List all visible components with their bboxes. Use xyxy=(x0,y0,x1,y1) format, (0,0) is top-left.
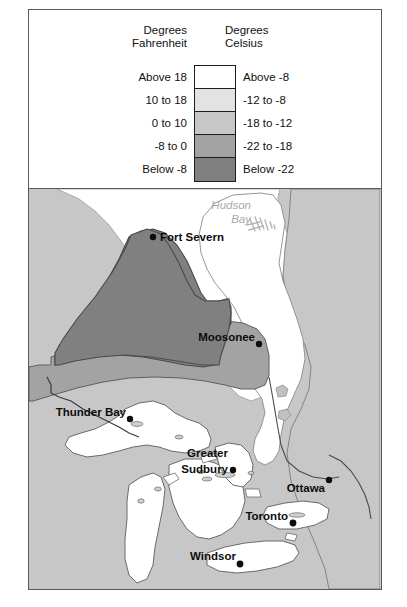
city-label-toronto: Toronto xyxy=(245,510,288,522)
legend-swatch-minus18-minus12 xyxy=(195,112,235,135)
city-dot-ottawa[interactable] xyxy=(326,477,332,483)
legend-header-celsius: DegreesCelsius xyxy=(225,24,365,50)
legend-label-c-0: Above -8 xyxy=(243,71,373,84)
city-label-windsor: Windsor xyxy=(190,550,236,562)
legend-label-f-3: -8 to 0 xyxy=(29,140,187,153)
legend-label-c-3: -22 to -18 xyxy=(243,140,373,153)
legend-label-f-1: 10 to 18 xyxy=(29,94,187,107)
city-label-fort-severn: Fort Severn xyxy=(160,231,224,243)
legend-label-c-1: -12 to -8 xyxy=(243,94,373,107)
map-panel: Fort Severn Moosonee Thunder Bay Greater… xyxy=(29,189,381,589)
city-dot-greater-sudbury[interactable] xyxy=(230,467,236,473)
figure-frame: DegreesFahrenheit DegreesCelsius Above 1… xyxy=(28,9,382,590)
water-label-hudson-bay-line1: Hudson xyxy=(211,199,251,211)
legend-label-c-4: Below -22 xyxy=(243,163,373,176)
temperature-map-figure: DegreesFahrenheit DegreesCelsius Above 1… xyxy=(0,0,407,607)
legend-swatch-above-minus8 xyxy=(195,66,235,89)
legend-swatch-column xyxy=(194,65,236,182)
city-dot-thunder-bay[interactable] xyxy=(127,416,133,422)
city-label-ottawa: Ottawa xyxy=(287,482,326,494)
legend-panel: DegreesFahrenheit DegreesCelsius Above 1… xyxy=(29,10,381,189)
city-dot-fort-severn[interactable] xyxy=(150,234,156,240)
city-dot-moosonee[interactable] xyxy=(256,341,262,347)
water-label-hudson-bay-line2: Bay xyxy=(231,213,252,225)
legend-label-c-2: -18 to -12 xyxy=(243,117,373,130)
city-label-thunder-bay: Thunder Bay xyxy=(56,406,127,418)
city-dot-windsor[interactable] xyxy=(237,561,244,568)
city-dot-toronto[interactable] xyxy=(290,520,297,527)
city-label-greater-sudbury-line2: Sudbury xyxy=(181,463,228,475)
legend-swatch-minus12-minus8 xyxy=(195,89,235,112)
legend-swatch-below-minus22 xyxy=(195,158,235,181)
city-label-moosonee: Moosonee xyxy=(198,331,255,343)
city-label-greater-sudbury-line1: Greater xyxy=(187,447,228,459)
legend-label-f-2: 0 to 10 xyxy=(29,117,187,130)
legend-label-f-0: Above 18 xyxy=(29,71,187,84)
ontario-map-svg: Fort Severn Moosonee Thunder Bay Greater… xyxy=(29,189,380,589)
legend-header-fahrenheit: DegreesFahrenheit xyxy=(29,24,187,50)
legend-label-f-4: Below -8 xyxy=(29,163,187,176)
legend-swatch-minus22-minus18 xyxy=(195,135,235,158)
